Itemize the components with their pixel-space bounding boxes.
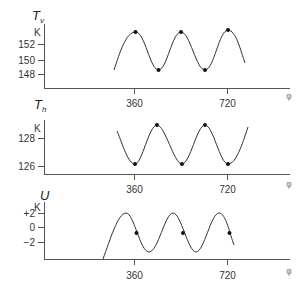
th-min-point xyxy=(133,162,137,166)
tv-ytick: 148 xyxy=(18,69,35,80)
u-phi-label: φ xyxy=(286,266,292,276)
panel-th: 360 720 Th K 128 126 φ xyxy=(18,97,292,189)
tv-max-point xyxy=(179,30,183,34)
tv-ytick: 150 xyxy=(18,55,35,66)
th-ytick: 128 xyxy=(18,133,35,144)
u-xtick: 360 xyxy=(126,270,143,281)
tv-curve xyxy=(114,30,245,70)
tv-phi-label: φ xyxy=(286,91,292,101)
tv-ytick: 152 xyxy=(18,39,35,50)
tv-max-point xyxy=(134,30,138,34)
th-unit-label: K xyxy=(34,123,41,134)
th-min-point xyxy=(180,162,184,166)
u-ytick: 0 xyxy=(29,222,35,233)
tv-max-point xyxy=(226,28,230,32)
th-min-point xyxy=(226,162,230,166)
th-curve xyxy=(117,125,248,164)
u-marked-point xyxy=(135,231,139,235)
u-xtick: 720 xyxy=(219,270,236,281)
panel-u: 360 720 U K +2 0 −2 360 720 φ xyxy=(24,184,292,281)
th-var-label: Th xyxy=(34,97,47,114)
u-var-label: U xyxy=(40,188,50,203)
th-ytick: 126 xyxy=(18,161,35,172)
tv-unit-label: K xyxy=(34,27,41,38)
tv-min-point xyxy=(157,68,161,72)
panel-tv: Tv K 152 150 148 φ xyxy=(18,8,292,101)
tv-min-point xyxy=(203,68,207,72)
u-curve xyxy=(103,213,234,259)
u-unit-label: K xyxy=(34,202,41,213)
u-ytick: +2 xyxy=(24,208,36,219)
tv-var-label: Tv xyxy=(32,8,45,25)
th-xtick: 720 xyxy=(219,184,236,195)
th-phi-label: φ xyxy=(286,179,292,189)
th-xtick: 360 xyxy=(126,184,143,195)
th-max-point xyxy=(155,123,159,127)
tv-xtick: 360 xyxy=(126,98,143,109)
th-max-point xyxy=(203,123,207,127)
chart-figure: Tv K 152 150 148 φ 360 720 Th K 128 126 xyxy=(0,0,306,292)
u-marked-point xyxy=(228,231,232,235)
u-ytick: −2 xyxy=(24,237,36,248)
u-marked-point xyxy=(181,231,185,235)
tv-xtick: 720 xyxy=(219,98,236,109)
